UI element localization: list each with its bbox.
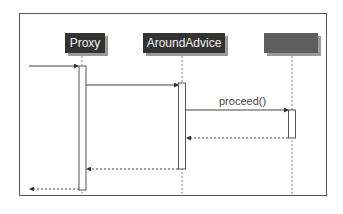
activation-proxy xyxy=(79,66,86,190)
message-label-proceed: proceed() xyxy=(219,95,266,107)
sequence-lines xyxy=(0,0,343,214)
activation-aroundadvice xyxy=(179,83,186,169)
activation-target xyxy=(289,110,296,138)
